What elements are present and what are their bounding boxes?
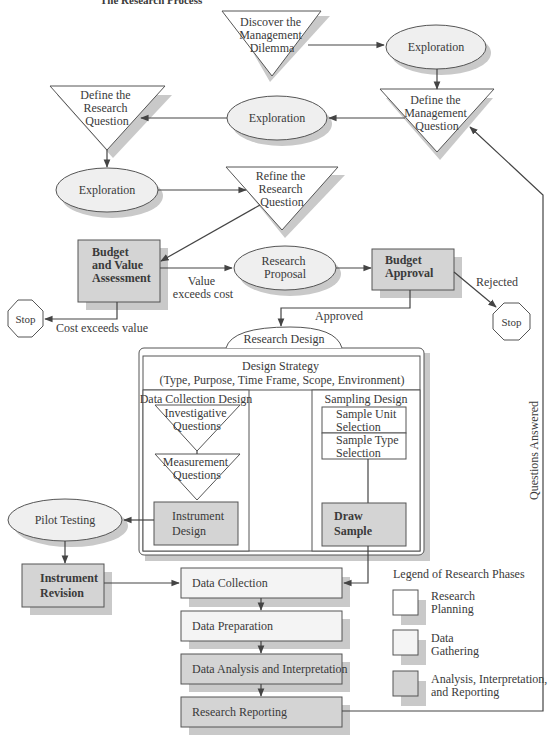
- node-budget-approval: Budget Approval: [372, 249, 462, 298]
- node-label: Stop: [15, 313, 36, 325]
- node-label: Research Proposal: [262, 254, 309, 281]
- node-budget-value-assessment: Budget and Value Assessment: [78, 240, 168, 310]
- node-label: Data Preparation: [192, 619, 273, 633]
- node-discover-dilemma: Discover the Management Dilemma: [222, 11, 330, 82]
- research-process-diagram: The Research Process Discover the Manage…: [0, 0, 550, 741]
- label-questions-answered: Questions Answered: [527, 401, 541, 500]
- node-label: Define the Research Question: [80, 88, 133, 128]
- label-rejected: Rejected: [476, 275, 518, 289]
- node-research-reporting: Research Reporting: [181, 697, 350, 735]
- node-stop-left: Stop: [8, 300, 43, 337]
- node-label: Exploration: [408, 40, 465, 54]
- node-exploration-1: Exploration: [386, 25, 491, 75]
- node-draw-sample: Draw Sample: [322, 503, 406, 546]
- node-stop-right: Stop: [493, 303, 530, 340]
- node-label: Measurement Questions: [163, 455, 231, 482]
- node-data-analysis: Data Analysis and Interpretation: [181, 654, 350, 692]
- node-label: Pilot Testing: [35, 513, 96, 527]
- node-label: Exploration: [249, 111, 306, 125]
- label-cost-exceeds-value: Cost exceeds value: [56, 321, 148, 335]
- node-label: Data Analysis and Interpretation: [192, 662, 348, 676]
- legend-label: Research Planning: [431, 589, 478, 616]
- node-research-proposal: Research Proposal: [234, 246, 341, 296]
- node-exploration-2: Exploration: [227, 96, 332, 146]
- legend-item-data-gathering: Data Gathering: [393, 630, 479, 665]
- node-define-management-question: Define the Management Question: [380, 89, 494, 160]
- legend-item-analysis-reporting: Analysis, Interpretation, and Reporting: [393, 671, 550, 706]
- node-sample-unit-selection: Sample Unit Selection: [322, 407, 406, 434]
- legend-label: Analysis, Interpretation, and Reporting: [431, 672, 550, 699]
- node-sample-type-selection: Sample Type Selection: [322, 433, 406, 460]
- edge-refine-to-budget-value: [161, 205, 260, 261]
- figure-caption: The Research Process: [100, 0, 203, 6]
- node-instrument-revision: Instrument Revision: [22, 564, 112, 615]
- node-label: Research Reporting: [192, 705, 287, 719]
- node-label: Exploration: [79, 183, 136, 197]
- label-approved: Approved: [315, 309, 363, 323]
- sampling-design-title: Sampling Design: [325, 392, 408, 406]
- legend-item-research-planning: Research Planning: [393, 589, 478, 625]
- data-collection-design-title: Data Collection Design: [140, 392, 253, 406]
- label-value-exceeds-cost: Value exceeds cost: [173, 274, 234, 301]
- research-design-title: Research Design: [244, 332, 325, 346]
- legend-title: Legend of Research Phases: [393, 567, 525, 581]
- node-refine-research-question: Refine the Research Question: [226, 167, 345, 238]
- node-exploration-3: Exploration: [56, 168, 163, 218]
- node-label: Data Collection: [192, 576, 268, 590]
- node-data-collection: Data Collection: [181, 568, 350, 607]
- node-data-preparation: Data Preparation: [181, 611, 350, 649]
- node-label: Refine the Research Question: [256, 169, 309, 209]
- legend: Legend of Research Phases Research Plann…: [393, 567, 550, 706]
- node-instrument-design: Instrument Design: [154, 502, 238, 545]
- node-label: Stop: [501, 316, 522, 328]
- research-design-container: Research Design Design Strategy (Type, P…: [139, 327, 430, 561]
- node-label: Investigative Questions: [165, 406, 230, 433]
- node-pilot-testing: Pilot Testing: [8, 499, 128, 547]
- legend-label: Data Gathering: [431, 631, 479, 658]
- node-define-research-question: Define the Research Question: [50, 86, 172, 158]
